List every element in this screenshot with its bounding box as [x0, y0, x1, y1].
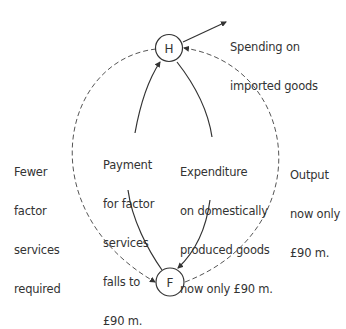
expenditure-label: Expenditure on domestically produced goo… [180, 140, 273, 309]
imports-line: imported goods [230, 80, 318, 93]
imports-line: Spending on [230, 41, 318, 54]
expenditure-line: Expenditure [180, 166, 273, 179]
fewer-line: factor [14, 205, 61, 218]
output-line: now only [290, 208, 340, 221]
output-line: Output [290, 169, 340, 182]
imports-label: Spending on imported goods [230, 15, 318, 106]
expenditure-line: produced goods [180, 244, 273, 257]
payment-line: services [103, 237, 154, 250]
payment-label: Payment for factor services falls to £90… [103, 133, 154, 329]
payment-line: falls to [103, 276, 154, 289]
fewer-line: Fewer [14, 166, 61, 179]
expenditure-flow-upper [177, 62, 212, 137]
imports-arrow [183, 22, 226, 42]
output-line: £90 m. [290, 247, 340, 260]
expenditure-line: on domestically [180, 205, 273, 218]
output-label: Output now only £90 m. [290, 143, 340, 273]
expenditure-line: now only £90 m. [180, 283, 273, 296]
fewer-line: required [14, 283, 61, 296]
payment-line: for factor [103, 198, 154, 211]
payment-flow-upper [135, 62, 160, 133]
payment-line: Payment [103, 159, 154, 172]
payment-line: £90 m. [103, 315, 154, 328]
households-label: H [164, 42, 173, 56]
firms-label: F [167, 276, 174, 290]
fewer-factor-label: Fewer factor services required [14, 140, 61, 309]
fewer-line: services [14, 244, 61, 257]
